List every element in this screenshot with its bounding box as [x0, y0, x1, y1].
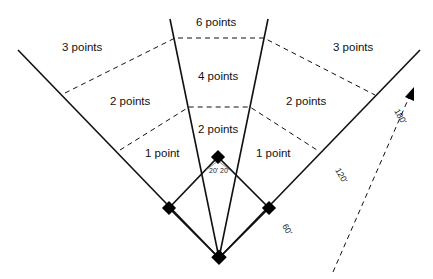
left-center-line	[170, 19, 219, 258]
zone-left-outer: 3 points	[62, 41, 103, 53]
zone-right-outer: 3 points	[333, 41, 374, 53]
baseball-scoring-diagram: 3 points 6 points 3 points 2 points 4 po…	[0, 0, 433, 279]
zone-center-inner: 2 points	[198, 123, 239, 135]
angle-label-right: 20'	[220, 167, 229, 174]
distance-label-120: 120'	[333, 166, 350, 185]
zone-right-middle: 2 points	[286, 95, 327, 107]
field-diagram: 3 points 6 points 3 points 2 points 4 po…	[0, 0, 433, 279]
distance-label-60: 60'	[280, 222, 294, 237]
arrow-head-icon	[405, 87, 414, 101]
zone-left-middle: 2 points	[110, 95, 151, 107]
distance-label-180: 180'	[392, 107, 409, 126]
angle-label-left: 20'	[209, 167, 218, 174]
zone-center-outer: 6 points	[196, 16, 237, 28]
zone-right-inner: 1 point	[256, 147, 291, 159]
zone-left-inner: 1 point	[145, 147, 180, 159]
infield-diamond	[169, 157, 269, 258]
right-center-line	[219, 19, 268, 258]
outer-boundary-dashed	[65, 38, 375, 95]
zone-center-middle: 4 points	[198, 70, 239, 82]
